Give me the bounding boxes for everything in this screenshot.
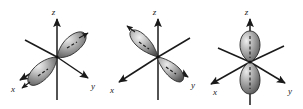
orbital-lobe-upper-left <box>130 30 158 57</box>
orbital-panel-pz: z x y <box>200 0 303 109</box>
axis-label-y: y <box>90 81 95 91</box>
axis-label-y: y <box>287 86 292 96</box>
nucleus-point <box>156 55 159 58</box>
orbital-lobe-lower-right <box>158 57 184 82</box>
axis-back-stub <box>25 40 57 57</box>
orbital-lobe-lower-left <box>28 57 57 85</box>
orbital-panel-py: z x y <box>100 0 200 109</box>
axis-label-y: y <box>190 80 195 90</box>
axis-y <box>57 57 88 78</box>
nucleus-point <box>55 55 58 58</box>
orbital-lobe-upper-right <box>57 32 86 58</box>
nucleus-point <box>248 60 251 63</box>
orbital-figure: z x y <box>0 0 303 109</box>
orbital-lobe-upper <box>240 31 260 62</box>
axis-back-stub <box>158 38 190 57</box>
axis-label-z: z <box>244 7 249 17</box>
orbital-panel-px: z x y <box>0 0 100 109</box>
axis-label-x: x <box>10 84 15 94</box>
axis-label-x: x <box>109 85 114 95</box>
axis-label-x: x <box>212 87 217 97</box>
axis-x <box>119 57 158 82</box>
axis-label-z: z <box>152 7 157 17</box>
axis-label-z: z <box>51 7 56 17</box>
